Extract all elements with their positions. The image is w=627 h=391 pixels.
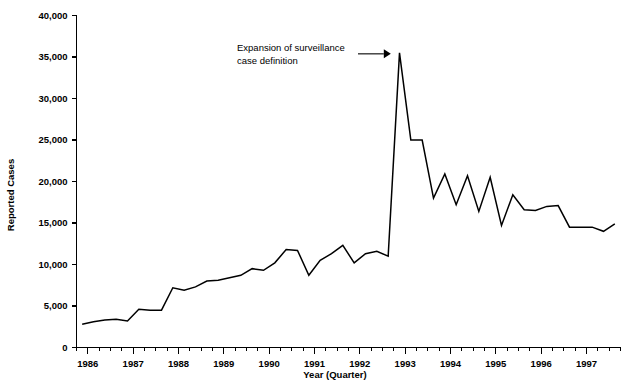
x-tick-label: 1986: [77, 358, 98, 369]
annotation-text-line-2: case definition: [237, 55, 298, 66]
x-axis-label: Year (Quarter): [303, 369, 366, 380]
x-tick-label: 1995: [485, 358, 507, 369]
annotation-text-line-1: Expansion of surveillance: [237, 42, 345, 53]
x-tick-label: 1993: [395, 358, 416, 369]
y-tick-label: 0: [62, 342, 67, 353]
y-tick-label: 15,000: [38, 217, 67, 228]
y-tick-label: 25,000: [38, 134, 67, 145]
x-axis-tick-labels: 1986198719881989199019911992199319941995…: [77, 358, 597, 369]
y-axis-tick-labels: 05,00010,00015,00020,00025,00030,00035,0…: [38, 10, 67, 353]
y-axis-ticks: [72, 16, 77, 348]
axis-lines: [77, 16, 621, 348]
chart-figure: Reported Cases 05,00010,00015,00020,0002…: [0, 0, 627, 391]
annotation-arrow-head: [384, 49, 391, 58]
y-tick-label: 40,000: [38, 10, 67, 21]
x-tick-label: 1991: [304, 358, 326, 369]
x-tick-label: 1994: [440, 358, 462, 369]
y-tick-label: 10,000: [38, 259, 67, 270]
x-tick-label: 1992: [349, 358, 370, 369]
reported-cases-line-chart: Reported Cases 05,00010,00015,00020,0002…: [0, 0, 627, 391]
x-tick-label: 1997: [576, 358, 597, 369]
x-tick-label: 1988: [168, 358, 189, 369]
x-tick-label: 1990: [259, 358, 280, 369]
x-tick-label: 1996: [531, 358, 552, 369]
annotation-expansion-of-surveillance: Expansion of surveillance case definitio…: [237, 42, 391, 66]
y-tick-label: 5,000: [44, 300, 68, 311]
x-tick-label: 1987: [123, 358, 144, 369]
y-tick-label: 35,000: [38, 51, 67, 62]
data-series-line: [82, 53, 615, 324]
x-tick-label: 1989: [213, 358, 234, 369]
y-tick-label: 30,000: [38, 93, 67, 104]
y-tick-label: 20,000: [38, 176, 67, 187]
y-axis-label: Reported Cases: [5, 159, 16, 231]
